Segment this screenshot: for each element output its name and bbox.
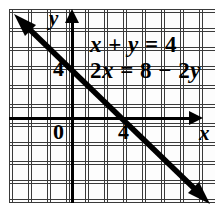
x-axis-line bbox=[9, 117, 195, 120]
equation-1-term-x: x bbox=[90, 32, 102, 57]
up-arrowhead-icon bbox=[65, 9, 79, 23]
y-axis-line bbox=[71, 14, 74, 203]
equation-annotations: x + y = 4 2x = 8 − 2y bbox=[90, 32, 201, 84]
equation-2-coef-2b: 2 bbox=[172, 58, 190, 83]
x-axis-tick-label-4: 4 bbox=[118, 121, 129, 143]
x-axis-label: x bbox=[199, 123, 210, 144]
origin-label: 0 bbox=[53, 121, 64, 143]
equation-2: 2x = 8 − 2y bbox=[90, 58, 201, 84]
equation-1: x + y = 4 bbox=[90, 32, 201, 58]
equation-2-rhs-8: = 8 bbox=[114, 58, 158, 83]
equation-1-op-plus: + bbox=[102, 32, 128, 57]
y-axis-label: y bbox=[49, 8, 58, 29]
equation-1-rhs: = 4 bbox=[139, 32, 177, 57]
equation-2-op-minus: − bbox=[158, 58, 172, 83]
y-axis-tick-label-4: 4 bbox=[53, 58, 64, 80]
equation-2-term-x: x bbox=[102, 58, 114, 83]
equation-2-coef-2: 2 bbox=[90, 58, 102, 83]
equation-2-term-y: y bbox=[190, 58, 201, 83]
equation-1-term-y: y bbox=[128, 32, 139, 57]
graph-figure: y x 4 4 0 x + y = 4 2x = 8 − 2y bbox=[0, 0, 224, 210]
